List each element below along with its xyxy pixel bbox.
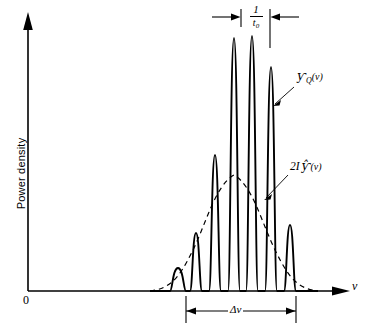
spike-curve-argument: (ν)	[312, 71, 323, 82]
origin-label: 0	[23, 294, 29, 306]
envelope-argument: (ν)	[311, 161, 322, 172]
fraction-bar	[250, 16, 263, 17]
mode-spacing-label: 1 t0	[247, 4, 265, 30]
figure-container: Power density 0 ν 1 t0 ƴQ(ν) 2Iƴ̂(ν) Δν	[0, 0, 368, 335]
mode-spacing-denominator-sub: 0	[256, 22, 260, 30]
spike-curve-label: ƴQ(ν)	[297, 70, 323, 85]
envelope-prefix: 2I	[290, 160, 300, 172]
gq-leader-line	[273, 87, 294, 106]
script-g-hat-icon: ƴ̂	[302, 159, 311, 173]
mode-spacing-numerator: 1	[247, 4, 265, 15]
bandwidth-label: Δν	[228, 304, 243, 315]
x-axis-label: ν	[352, 280, 357, 292]
mode-spacing-denominator: t0	[247, 18, 265, 30]
y-axis-label: Power density	[16, 119, 27, 229]
envelope-curve-label: 2Iƴ̂(ν)	[290, 160, 322, 173]
script-g-icon: ƴ	[297, 69, 306, 83]
